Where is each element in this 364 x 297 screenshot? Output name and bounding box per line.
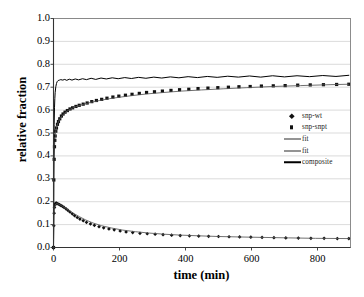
series-line-2 [54,204,349,248]
legend-item[interactable]: snp-snpt [283,122,345,134]
legend-label: fit [302,135,309,143]
legend-line-swatch [283,133,302,144]
legend-line-icon [284,150,301,151]
legend-line-icon [284,161,301,163]
legend-marker-swatch [283,110,302,121]
series-markers-0 [52,201,351,249]
legend-label: snp-wt [302,112,322,120]
legend: snp-wtsnp-snptfitfitcomposite [283,110,345,168]
chart-figure: relative fraction time (min) 0.00.10.20.… [0,0,364,297]
axis-ticks [51,19,318,251]
legend-label: fit [302,147,309,155]
legend-item[interactable]: snp-wt [283,110,345,122]
legend-item[interactable]: composite [283,156,345,168]
legend-diamond-marker-icon [289,113,294,118]
legend-item[interactable]: fit [283,133,345,145]
legend-line-swatch [283,145,302,156]
legend-label: snp-snpt [302,123,327,131]
legend-line-icon [284,138,301,139]
legend-line-swatch [283,157,302,168]
legend-item[interactable]: fit [283,145,345,157]
legend-square-marker-icon [290,126,293,129]
legend-label: composite [302,158,332,166]
legend-marker-swatch [283,122,302,133]
